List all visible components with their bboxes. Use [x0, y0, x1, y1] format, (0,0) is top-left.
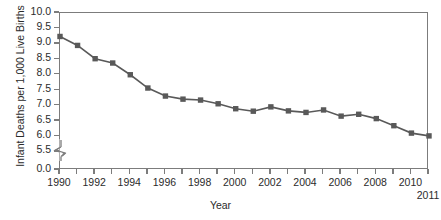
tick-mark	[269, 169, 270, 174]
data-point-2003	[286, 108, 291, 113]
y-tick-label: 7.0	[15, 97, 51, 109]
data-point-2000	[233, 106, 238, 111]
y-tick-label: 5.5	[15, 143, 51, 155]
tick-mark	[339, 169, 340, 174]
tick-mark	[54, 42, 59, 43]
y-tick-label: 6.0	[15, 128, 51, 140]
data-point-1995	[145, 85, 150, 90]
tick-mark	[304, 169, 305, 174]
data-point-1996	[163, 93, 168, 98]
tick-mark	[375, 169, 376, 174]
y-tick-label: 9.5	[15, 20, 51, 32]
data-point-2006	[338, 113, 343, 118]
y-axis-break-icon	[52, 139, 68, 161]
y-tick-label: 8.0	[15, 66, 51, 78]
x-tick-label: 1994	[118, 176, 141, 188]
x-tick-label: 2000	[223, 176, 246, 188]
tick-mark	[58, 169, 59, 174]
data-point-1993	[110, 60, 115, 65]
data-point-2001	[251, 108, 256, 113]
tick-mark	[54, 58, 59, 59]
data-point-1992	[92, 56, 97, 61]
y-tick-label: 10.0	[15, 5, 51, 17]
tick-mark	[410, 169, 411, 174]
tick-mark	[129, 169, 130, 174]
tick-mark	[76, 169, 77, 174]
x-tick-label: 1990	[47, 176, 70, 188]
x-tick-label: 2010	[399, 176, 422, 188]
tick-mark	[392, 169, 393, 174]
data-point-1994	[128, 72, 133, 77]
data-point-2004	[303, 110, 308, 115]
y-tick-label: 9.0	[15, 35, 51, 47]
infant-mortality-line-chart: Infant Deaths per 1,000 Live Births 10.0…	[0, 0, 441, 220]
data-point-2011	[426, 133, 431, 138]
tick-mark	[54, 104, 59, 105]
tick-mark	[54, 135, 59, 136]
x-tick-label: 2008	[364, 176, 387, 188]
tick-mark	[54, 73, 59, 74]
y-tick-label: 8.5	[15, 51, 51, 63]
y-tick-label: 7.5	[15, 82, 51, 94]
data-point-2005	[321, 107, 326, 112]
x-axis-title: Year	[0, 199, 441, 211]
x-tick-label: 2002	[258, 176, 281, 188]
data-point-1997	[180, 96, 185, 101]
tick-mark	[111, 169, 112, 174]
x-tick-label: 1998	[188, 176, 211, 188]
x-tick-label: 2004	[293, 176, 316, 188]
x-tick-label: 2006	[328, 176, 351, 188]
data-point-1990	[57, 34, 62, 39]
data-point-2010	[409, 130, 414, 135]
tick-mark	[146, 169, 147, 174]
data-point-1991	[75, 43, 80, 48]
tick-mark	[54, 27, 59, 28]
x-tick-label: 1996	[153, 176, 176, 188]
data-point-1999	[215, 101, 220, 106]
tick-mark	[252, 169, 253, 174]
y-tick-label: 0.0	[15, 162, 51, 174]
tick-mark	[357, 169, 358, 174]
tick-mark	[54, 119, 59, 120]
tick-mark	[427, 169, 428, 174]
x-tick-label: 1992	[82, 176, 105, 188]
tick-mark	[181, 169, 182, 174]
data-point-2007	[356, 112, 361, 117]
series-line-and-markers	[60, 13, 429, 170]
tick-mark	[199, 169, 200, 174]
data-point-2002	[268, 104, 273, 109]
tick-mark	[93, 169, 94, 174]
tick-mark	[216, 169, 217, 174]
y-tick-label: 6.5	[15, 113, 51, 125]
data-point-1998	[198, 97, 203, 102]
tick-mark	[234, 169, 235, 174]
plot-area	[59, 12, 428, 169]
tick-mark	[287, 169, 288, 174]
data-point-2009	[391, 123, 396, 128]
tick-mark	[54, 11, 59, 12]
tick-mark	[322, 169, 323, 174]
tick-mark	[164, 169, 165, 174]
tick-mark	[54, 89, 59, 90]
data-point-2008	[374, 116, 379, 121]
